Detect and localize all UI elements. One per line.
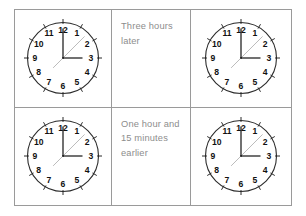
clock-numeral-2: 2 <box>85 137 90 147</box>
clock-top-right-face: 123456789101112 <box>197 14 285 102</box>
clock-numeral-5: 5 <box>75 175 80 185</box>
clock-numeral-10: 10 <box>34 39 44 49</box>
clock-cell-top-right: 123456789101112 <box>191 10 291 108</box>
clock-numeral-2: 2 <box>263 39 268 49</box>
clock-numeral-2: 2 <box>85 39 90 49</box>
clock-numeral-6: 6 <box>239 81 244 91</box>
clock-numeral-1: 1 <box>75 127 80 137</box>
clock-numeral-11: 11 <box>44 127 53 137</box>
clock-numeral-8: 8 <box>36 165 41 175</box>
clock-center-hub <box>62 155 64 157</box>
clock-numeral-9: 9 <box>211 151 216 161</box>
clock-numeral-7: 7 <box>225 175 230 185</box>
clock-numeral-11: 11 <box>44 29 53 39</box>
clock-bottom-right-face: 123456789101112 <box>197 112 285 200</box>
clock-bottom-right: 123456789101112 <box>197 112 285 200</box>
clock-numeral-8: 8 <box>214 165 219 175</box>
clock-numeral-7: 7 <box>47 77 52 87</box>
clock-numeral-10: 10 <box>212 39 222 49</box>
clock-numeral-1: 1 <box>253 29 258 39</box>
clock-numeral-4: 4 <box>263 67 268 77</box>
clock-numeral-7: 7 <box>225 77 230 87</box>
prompt-cell-row2: One hour and 15 minutes earlier <box>112 108 191 206</box>
clock-numeral-9: 9 <box>211 53 216 63</box>
clock-numeral-7: 7 <box>47 175 52 185</box>
clock-numeral-1: 1 <box>253 127 258 137</box>
clock-center-hub <box>240 155 242 157</box>
clock-numeral-6: 6 <box>239 179 244 189</box>
clock-numeral-5: 5 <box>253 77 258 87</box>
clock-numeral-4: 4 <box>263 165 268 175</box>
clock-numeral-4: 4 <box>85 67 90 77</box>
clock-top-left-face: 123456789101112 <box>19 14 107 102</box>
clock-numeral-10: 10 <box>212 137 222 147</box>
clock-numeral-3: 3 <box>89 151 94 161</box>
clock-numeral-4: 4 <box>85 165 90 175</box>
clock-cell-bottom-right: 123456789101112 <box>191 108 291 206</box>
clock-numeral-11: 11 <box>222 29 231 39</box>
clock-bottom-left-face: 123456789101112 <box>19 112 107 200</box>
clock-center-hub <box>62 57 64 59</box>
clock-numeral-2: 2 <box>263 137 268 147</box>
clock-center-hub <box>240 57 242 59</box>
prompt-row1-text: Three hours later <box>121 19 182 48</box>
clock-cell-bottom-left: 123456789101112 <box>15 108 112 206</box>
clock-bottom-left: 123456789101112 <box>19 112 107 200</box>
clock-numeral-6: 6 <box>61 179 66 189</box>
clock-top-left: 123456789101112 <box>19 14 107 102</box>
clock-numeral-3: 3 <box>89 53 94 63</box>
clock-numeral-8: 8 <box>36 67 41 77</box>
clock-numeral-10: 10 <box>34 137 44 147</box>
clock-numeral-9: 9 <box>33 151 38 161</box>
clock-worksheet-table: 123456789101112 Three hours later 123456… <box>14 9 292 206</box>
prompt-cell-row1: Three hours later <box>112 10 191 108</box>
clock-numeral-9: 9 <box>33 53 38 63</box>
clock-numeral-6: 6 <box>61 81 66 91</box>
clock-top-right: 123456789101112 <box>197 14 285 102</box>
clock-numeral-8: 8 <box>214 67 219 77</box>
clock-numeral-11: 11 <box>222 127 231 137</box>
clock-numeral-3: 3 <box>267 151 272 161</box>
worksheet-page: 123456789101112 Three hours later 123456… <box>0 0 306 216</box>
clock-cell-top-left: 123456789101112 <box>15 10 112 108</box>
clock-numeral-5: 5 <box>75 77 80 87</box>
clock-numeral-1: 1 <box>75 29 80 39</box>
clock-numeral-5: 5 <box>253 175 258 185</box>
clock-numeral-3: 3 <box>267 53 272 63</box>
prompt-row2-text: One hour and 15 minutes earlier <box>121 117 182 161</box>
